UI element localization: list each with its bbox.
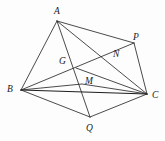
segment-QC [90,94,147,117]
segment-AB [21,21,57,90]
segment-AP [57,21,134,43]
segments-group [21,21,147,117]
vertex-label-M: M [85,77,93,87]
segment-BC [21,90,147,94]
segment-PC [134,43,147,94]
vertex-label-Q: Q [86,124,93,134]
segment-AQ [57,21,90,117]
vertex-label-A: A [54,7,60,17]
geometry-canvas [0,0,165,141]
vertex-label-G: G [59,57,66,67]
vertex-label-N: N [113,50,119,60]
segment-BQ [21,90,90,117]
vertex-label-C: C [152,91,158,101]
vertex-label-B: B [7,85,13,95]
vertex-label-P: P [133,33,139,43]
geometry-figure: ABCPQGMN [0,0,165,141]
